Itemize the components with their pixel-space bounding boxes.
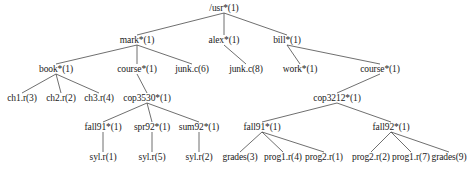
tree-node-ch2r: ch2.r(2) xyxy=(46,93,76,103)
tree-node-prog2r1: prog2.r(1) xyxy=(305,152,343,162)
tree-node-ch1r: ch1.r(3) xyxy=(7,93,37,103)
tree-node-prog2r2: prog2.r(2) xyxy=(352,152,390,162)
tree-node-book: book*(1) xyxy=(39,64,73,74)
tree-node-spr92: spr92*(1) xyxy=(134,122,170,132)
tree-node-sum92: sum92*(1) xyxy=(179,122,219,132)
tree-node-junkc6: junk.c(6) xyxy=(175,64,209,74)
tree-node-sylr2: syl.r(2) xyxy=(186,152,213,162)
tree-node-ch3r: ch3.r(4) xyxy=(84,93,114,103)
tree-node-prog1r4: prog1.r(4) xyxy=(264,152,302,162)
tree-node-course_mark: course*(1) xyxy=(117,64,157,74)
tree-node-cop3530: cop3530*(1) xyxy=(123,93,170,103)
tree-node-sylr1: syl.r(1) xyxy=(90,152,117,162)
tree-node-layer: /usr*(1)mark*(1)alex*(1)bill*(1)book*(1)… xyxy=(0,0,469,172)
tree-node-mark: mark*(1) xyxy=(120,35,155,45)
tree-node-cop3212: cop3212*(1) xyxy=(313,93,360,103)
tree-node-usr: /usr*(1) xyxy=(209,3,238,13)
tree-node-grades3: grades(3) xyxy=(223,152,258,162)
tree-node-sylr5: syl.r(5) xyxy=(139,152,166,162)
tree-node-fall91_3212: fall91*(1) xyxy=(244,122,281,132)
unix-directory-tree-figure: /usr*(1)mark*(1)alex*(1)bill*(1)book*(1)… xyxy=(0,0,469,172)
tree-node-grades9: grades(9) xyxy=(432,152,467,162)
tree-node-prog1r7: prog1.r(7) xyxy=(392,152,430,162)
tree-node-course_bill: course*(1) xyxy=(360,64,400,74)
tree-node-bill: bill*(1) xyxy=(273,35,301,45)
tree-node-alex: alex*(1) xyxy=(209,35,240,45)
tree-node-junkc8: junk.c(8) xyxy=(229,64,263,74)
tree-node-work: work*(1) xyxy=(283,64,318,74)
tree-node-fall91_3530: fall91*(1) xyxy=(85,122,122,132)
tree-node-fall92_3212: fall92*(1) xyxy=(373,122,410,132)
